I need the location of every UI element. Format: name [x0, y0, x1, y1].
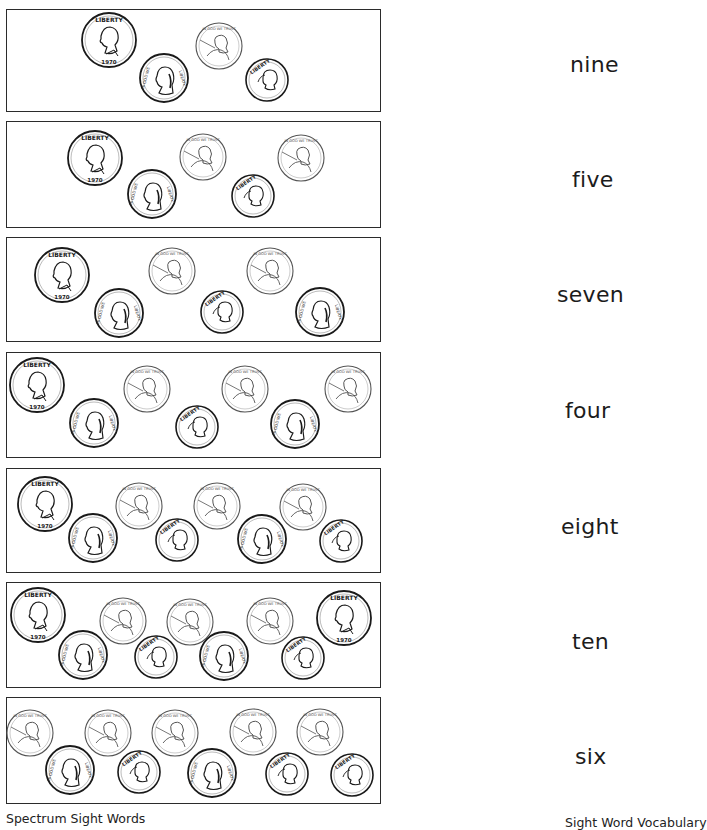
- svg-text:IN GOD WE TRUST: IN GOD WE TRUST: [155, 252, 189, 256]
- dime-coin-icon: LIBERTY: [174, 404, 220, 450]
- svg-text:LIBERTY: LIBERTY: [23, 361, 51, 368]
- penny-coin-icon: IN GOD WE TRUST: [295, 707, 345, 757]
- footer-section-title: Sight Word Vocabulary: [565, 815, 707, 830]
- svg-text:IN GOD WE TRUST: IN GOD WE TRUST: [202, 27, 236, 31]
- dime-coin-icon: LIBERTY: [244, 57, 290, 103]
- svg-text:IN GOD WE TRUST: IN GOD WE TRUST: [106, 602, 140, 606]
- svg-text:IN GOD WE TRUST: IN GOD WE TRUST: [284, 139, 318, 143]
- quarter-coin-icon: LIBERTY1970: [33, 246, 91, 304]
- svg-text:1970: 1970: [54, 294, 69, 300]
- svg-text:LIBERTY: LIBERTY: [31, 480, 59, 487]
- dime-coin-icon: LIBERTY: [199, 289, 245, 335]
- penny-coin-icon: IN GOD WE TRUST: [192, 481, 242, 531]
- dime-coin-icon: LIBERTY: [264, 751, 310, 797]
- nickel-coin-icon: IN GOD WELIBERTY: [138, 52, 190, 104]
- svg-text:IN GOD WE TRUST: IN GOD WE TRUST: [253, 602, 287, 606]
- nickel-coin-icon: IN GOD WELIBERTY: [126, 168, 178, 220]
- footer-publisher: Spectrum Sight Words: [6, 811, 145, 826]
- svg-text:1970: 1970: [336, 637, 351, 643]
- svg-text:IN GOD WE TRUST: IN GOD WE TRUST: [186, 138, 220, 142]
- svg-text:IN GOD WE TRUST: IN GOD WE TRUST: [173, 603, 207, 607]
- svg-text:LIBERTY: LIBERTY: [95, 16, 123, 23]
- nickel-coin-icon: IN GOD WELIBERTY: [294, 286, 346, 338]
- penny-coin-icon: IN GOD WE TRUST: [245, 246, 295, 296]
- svg-text:IN GOD WE TRUST: IN GOD WE TRUST: [91, 714, 125, 718]
- quarter-coin-icon: LIBERTY1970: [315, 589, 373, 647]
- quarter-coin-icon: LIBERTY1970: [80, 11, 138, 69]
- quarter-coin-icon: LIBERTY1970: [16, 475, 74, 533]
- number-word-ten: ten: [572, 629, 609, 654]
- number-word-six: six: [575, 744, 607, 769]
- penny-coin-icon: IN GOD WE TRUST: [178, 132, 228, 182]
- svg-text:IN GOD WE TRUST: IN GOD WE TRUST: [253, 252, 287, 256]
- number-word-eight: eight: [561, 514, 619, 539]
- svg-text:IN GOD WE TRUST: IN GOD WE TRUST: [303, 713, 337, 717]
- penny-coin-icon: IN GOD WE TRUST: [147, 246, 197, 296]
- svg-text:IN GOD WE TRUST: IN GOD WE TRUST: [236, 713, 270, 717]
- number-word-seven: seven: [557, 282, 624, 307]
- svg-text:IN GOD WE TRUST: IN GOD WE TRUST: [158, 714, 192, 718]
- dime-coin-icon: LIBERTY: [318, 518, 364, 564]
- svg-text:1970: 1970: [29, 404, 44, 410]
- penny-coin-icon: IN GOD WE TRUST: [228, 707, 278, 757]
- quarter-coin-icon: LIBERTY1970: [66, 129, 124, 187]
- nickel-coin-icon: IN GOD WELIBERTY: [198, 630, 250, 682]
- penny-coin-icon: IN GOD WE TRUST: [122, 364, 172, 414]
- penny-coin-icon: IN GOD WE TRUST: [194, 21, 244, 71]
- svg-text:LIBERTY: LIBERTY: [48, 251, 76, 258]
- svg-text:1970: 1970: [87, 177, 102, 183]
- number-word-five: five: [572, 167, 614, 192]
- svg-text:IN GOD WE TRUST: IN GOD WE TRUST: [331, 370, 365, 374]
- quarter-coin-icon: LIBERTY1970: [8, 356, 66, 414]
- svg-text:1970: 1970: [101, 59, 116, 65]
- svg-text:IN GOD WE TRUST: IN GOD WE TRUST: [200, 487, 234, 491]
- nickel-coin-icon: IN GOD WELIBERTY: [269, 398, 321, 450]
- svg-text:LIBERTY: LIBERTY: [24, 591, 52, 598]
- svg-text:1970: 1970: [37, 523, 52, 529]
- svg-text:IN GOD WE TRUST: IN GOD WE TRUST: [122, 487, 156, 491]
- penny-coin-icon: IN GOD WE TRUST: [323, 364, 373, 414]
- svg-text:IN GOD WE TRUST: IN GOD WE TRUST: [286, 488, 320, 492]
- nickel-coin-icon: IN GOD WELIBERTY: [68, 397, 120, 449]
- penny-coin-icon: IN GOD WE TRUST: [220, 364, 270, 414]
- svg-text:IN GOD WE TRUST: IN GOD WE TRUST: [228, 370, 262, 374]
- svg-text:IN GOD WE TRUST: IN GOD WE TRUST: [130, 370, 164, 374]
- svg-text:LIBERTY: LIBERTY: [81, 134, 109, 141]
- svg-text:LIBERTY: LIBERTY: [330, 594, 358, 601]
- nickel-coin-icon: IN GOD WELIBERTY: [67, 512, 119, 564]
- penny-coin-icon: IN GOD WE TRUST: [276, 133, 326, 183]
- number-word-four: four: [565, 398, 610, 423]
- nickel-coin-icon: IN GOD WELIBERTY: [93, 287, 145, 339]
- dime-coin-icon: LIBERTY: [230, 173, 276, 219]
- number-word-nine: nine: [570, 52, 619, 77]
- svg-text:1970: 1970: [30, 634, 45, 640]
- dime-coin-icon: LIBERTY: [329, 752, 375, 798]
- svg-text:IN GOD WE TRUST: IN GOD WE TRUST: [13, 714, 47, 718]
